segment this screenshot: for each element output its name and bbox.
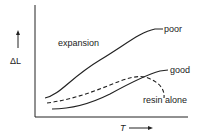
y-arrowhead-icon: [16, 30, 20, 35]
annotation-expansion: expansion: [58, 38, 99, 48]
expansion-diagram: ΔL T poor good resin alone expansion: [0, 0, 203, 135]
x-axis-label: T: [120, 123, 127, 133]
x-arrowhead-icon: [148, 126, 153, 130]
label-resin-alone: resin alone: [143, 95, 187, 105]
label-good: good: [170, 65, 190, 75]
y-axis-label: ΔL: [10, 56, 21, 66]
label-poor: poor: [164, 24, 182, 34]
